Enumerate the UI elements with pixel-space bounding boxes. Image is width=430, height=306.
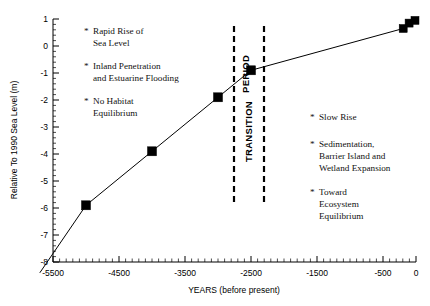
y-tick-label: -7 xyxy=(40,230,48,240)
x-tick-label: -5500 xyxy=(42,268,64,278)
left-annot-bullet: * xyxy=(84,61,89,71)
x-tick-label: -4500 xyxy=(108,268,130,278)
right-annot-line: Ecosystem xyxy=(319,199,359,209)
y-tick-label: -4 xyxy=(40,149,48,159)
y-tick-label: -2 xyxy=(40,95,48,105)
right-annot-line: Barrier Island and xyxy=(319,151,386,161)
y-tick-label: -1 xyxy=(40,68,48,78)
left-annot-line: Inland Penetration xyxy=(93,61,161,71)
x-tick-label: -2500 xyxy=(240,268,262,278)
right-annot-line: Sedimentation, xyxy=(319,139,374,149)
right-annot-line: Slow Rise xyxy=(319,112,357,122)
left-annot-bullet: * xyxy=(84,96,89,106)
right-annot-bullet: * xyxy=(310,139,315,149)
data-point xyxy=(411,16,419,24)
left-annot-line: Rapid Rise of xyxy=(93,26,144,36)
left-annot-line: Equilibrium xyxy=(93,108,137,118)
data-point xyxy=(148,147,157,156)
left-annot-line: No Habitat xyxy=(93,96,134,106)
y-axis-title: Relative To 1990 Sea Level (m) xyxy=(9,81,19,200)
transition-period-label-top: PERIOD xyxy=(240,55,251,93)
chart-canvas: 1 0 -1 -2 -3 -4 -5 -6 -7 -8 xyxy=(0,0,430,306)
y-tick-label: -6 xyxy=(40,203,48,213)
data-point xyxy=(214,93,223,102)
x-tick-label: 0 xyxy=(414,268,419,278)
right-annot-line: Equilibrium xyxy=(319,211,363,221)
y-tick-label: -3 xyxy=(40,122,48,132)
left-annot-line: Sea Level xyxy=(93,38,130,48)
right-annot-bullet: * xyxy=(310,112,315,122)
sea-level-chart: 1 0 -1 -2 -3 -4 -5 -6 -7 -8 xyxy=(0,0,430,306)
x-tick-label: -500 xyxy=(374,268,391,278)
right-annot-bullet: * xyxy=(310,187,315,197)
right-annot-line: Toward xyxy=(319,187,347,197)
y-tick-label: -5 xyxy=(40,176,48,186)
x-tick-label: -3500 xyxy=(174,268,196,278)
x-tick-label: -1500 xyxy=(306,268,328,278)
left-annot-line: and Estuarine Flooding xyxy=(93,73,179,83)
y-tick-label: 0 xyxy=(43,41,48,51)
x-axis-title: YEARS (before present) xyxy=(188,285,280,295)
transition-period-label-bottom: TRANSITION xyxy=(243,101,254,162)
right-annot-line: Wetland Expansion xyxy=(319,163,391,173)
data-point xyxy=(82,201,91,210)
left-annot-bullet: * xyxy=(84,26,89,36)
y-tick-label: 1 xyxy=(43,14,48,24)
